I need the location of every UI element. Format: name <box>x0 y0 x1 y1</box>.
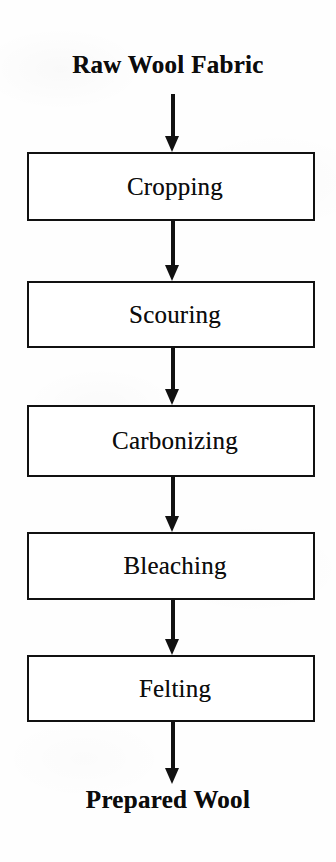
arrow-shaft <box>171 477 175 518</box>
process-box-scouring: Scouring <box>27 281 315 348</box>
arrow-shaft <box>171 722 175 770</box>
arrow-start-to-cropping <box>165 94 180 152</box>
flowchart-start-label: Raw Wool Fabric <box>0 50 336 80</box>
arrow-shaft <box>171 600 175 641</box>
arrow-head-icon <box>165 516 179 532</box>
process-box-carbonizing: Carbonizing <box>27 405 315 477</box>
arrow-head-icon <box>165 136 179 152</box>
arrow-carbonizing-to-bleaching <box>165 477 180 532</box>
process-box-felting: Felting <box>27 655 315 722</box>
flowchart-end-label: Prepared Wool <box>0 785 336 815</box>
process-flowchart: Raw Wool Fabric Cropping Scouring Carbon… <box>0 0 336 862</box>
process-box-label: Bleaching <box>123 552 226 580</box>
process-box-label: Carbonizing <box>112 427 238 455</box>
arrow-felting-to-prepared-wool <box>165 722 180 784</box>
arrow-scouring-to-carbonizing <box>165 348 180 405</box>
arrow-shaft <box>171 94 175 138</box>
arrow-cropping-to-scouring <box>165 221 180 281</box>
arrow-shaft <box>171 221 175 267</box>
arrow-shaft <box>171 348 175 391</box>
arrow-bleaching-to-felting <box>165 600 180 655</box>
arrow-head-icon <box>165 265 179 281</box>
arrow-head-icon <box>165 389 179 405</box>
process-box-label: Scouring <box>129 301 221 329</box>
process-box-label: Cropping <box>127 173 223 201</box>
process-box-bleaching: Bleaching <box>27 532 315 600</box>
arrow-head-icon <box>165 639 179 655</box>
process-box-label: Felting <box>139 675 211 703</box>
arrow-head-icon <box>165 768 179 784</box>
process-box-cropping: Cropping <box>27 152 315 221</box>
